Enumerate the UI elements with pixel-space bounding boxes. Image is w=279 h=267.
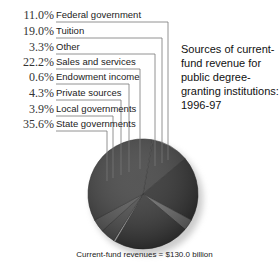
category-label: Local governments (56, 103, 137, 114)
percent-label: 35.6% (23, 117, 54, 131)
title-line: granting institutions: (181, 84, 279, 98)
category-label: Private sources (56, 87, 122, 98)
legend-labels: 11.0%Federal government19.0%Tuition3.3%O… (23, 8, 141, 131)
chart-title: Sources of current- fund revenue for pub… (181, 42, 279, 112)
category-label: Other (56, 41, 80, 52)
title-line: public degree- (181, 70, 279, 84)
pie-shading (88, 139, 198, 249)
title-line: Sources of current- (181, 42, 279, 56)
category-label: Federal government (56, 9, 141, 20)
percent-label: 3.3% (29, 40, 54, 54)
chart-footer: Current-fund revenues = $130.0 billion (0, 250, 279, 259)
category-label: Endowment income (56, 71, 139, 82)
percent-label: 3.9% (29, 102, 54, 116)
title-line: fund revenue for (181, 56, 279, 70)
percent-label: 19.0% (23, 24, 54, 38)
pie-chart: 11.0%Federal government19.0%Tuition3.3%O… (0, 0, 279, 267)
percent-label: 0.6% (29, 70, 54, 84)
category-label: State governments (56, 118, 136, 129)
category-label: Sales and services (56, 56, 136, 67)
percent-label: 22.2% (23, 55, 54, 69)
percent-label: 4.3% (29, 86, 54, 100)
percent-label: 11.0% (23, 8, 54, 22)
title-line: 1996-97 (181, 98, 279, 112)
category-label: Tuition (56, 25, 84, 36)
